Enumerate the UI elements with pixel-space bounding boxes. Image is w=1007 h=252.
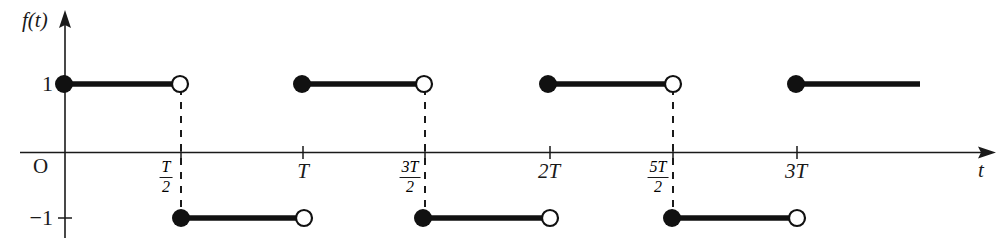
origin-label: O <box>33 156 48 177</box>
x-tick-label-t: T <box>297 161 309 182</box>
x-tick-label-3t: 3T <box>785 161 807 182</box>
fraction-denominator: 2 <box>648 179 669 196</box>
fraction-numerator: 5T <box>648 159 669 176</box>
fraction-numerator: T <box>160 159 173 176</box>
x-axis-label: t <box>978 160 984 181</box>
fraction-denominator: 2 <box>400 179 421 196</box>
square-wave-figure: f(t) t O 1 −1 T 2 T 3T 2 2T 5T 2 3T <box>0 0 1007 252</box>
open-endpoint-markers <box>172 76 805 226</box>
y-value-label-positive-one: 1 <box>42 73 53 95</box>
plot-canvas <box>0 0 1007 252</box>
fraction-denominator: 2 <box>160 179 173 196</box>
y-axis-label: f(t) <box>22 10 48 31</box>
x-tick-label-t-over-2: T 2 <box>160 159 173 196</box>
y-value-label-negative-one: −1 <box>30 207 53 229</box>
y-axis <box>59 10 71 238</box>
closed-endpoint-markers <box>55 75 805 227</box>
x-axis <box>20 147 996 159</box>
x-tick-label-3t-over-2: 3T 2 <box>400 159 421 196</box>
fraction-numerator: 3T <box>400 159 421 176</box>
x-tick-label-2t: 2T <box>538 161 560 182</box>
x-tick-label-5t-over-2: 5T 2 <box>648 159 669 196</box>
dashed-connectors <box>181 88 673 214</box>
